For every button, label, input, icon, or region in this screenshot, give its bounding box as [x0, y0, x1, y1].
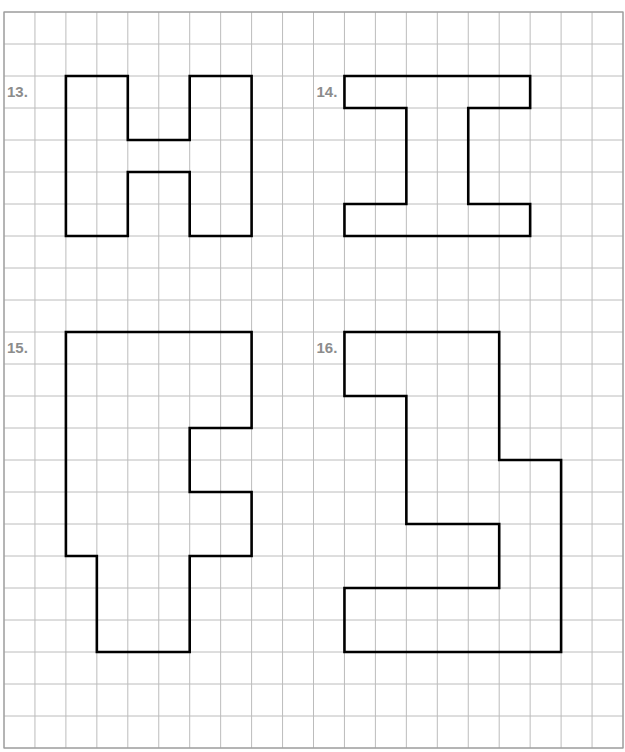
- problem-label-16: 16.: [317, 340, 338, 356]
- problem-label-14: 14.: [317, 84, 338, 100]
- problem-label-13: 13.: [7, 84, 28, 100]
- problem-label-15: 15.: [7, 340, 28, 356]
- grid-worksheet: [0, 0, 625, 752]
